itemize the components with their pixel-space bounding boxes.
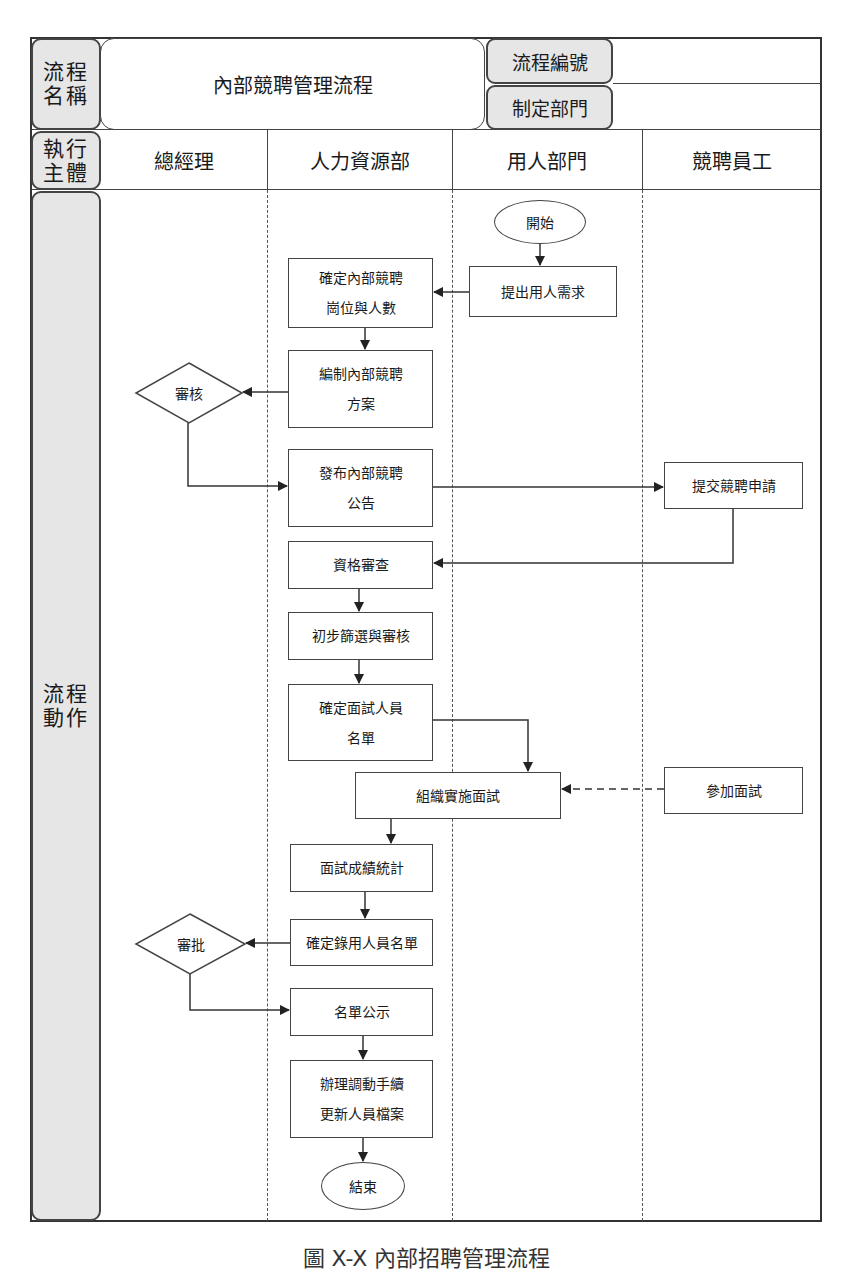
node-conduct-interview[interactable]: 組織實施面試 xyxy=(355,772,561,819)
lane-header-divider xyxy=(452,130,453,190)
node-confirm-positions-line2: 崗位與人數 xyxy=(319,293,403,323)
executor-label: 執行 主體 xyxy=(31,131,101,190)
node-score-stats[interactable]: 面試成績統計 xyxy=(290,844,433,892)
node-score-stats-text: 面試成績統計 xyxy=(320,853,404,883)
action-label-line1: 流程 xyxy=(40,682,92,706)
dept-label: 制定部門 xyxy=(486,85,613,130)
executor-label-line1: 執行 xyxy=(40,137,92,161)
node-start-text: 開始 xyxy=(526,212,554,232)
node-confirm-interviewees-line1: 確定面試人員 xyxy=(319,693,403,723)
lane-separator xyxy=(642,190,643,1221)
node-conduct-interview-text: 組織實施面試 xyxy=(416,781,500,811)
lane-header-emp-text: 競聘員工 xyxy=(692,146,772,175)
node-draft-plan-line2: 方案 xyxy=(319,389,403,419)
lane-header-divider xyxy=(267,130,268,190)
node-draft-plan[interactable]: 編制內部競聘 方案 xyxy=(288,350,433,428)
node-publish-list[interactable]: 名單公示 xyxy=(290,988,433,1036)
process-name-label: 流程 名稱 xyxy=(31,38,101,130)
node-confirm-hires-text: 確定錄用人員名單 xyxy=(306,928,418,958)
process-id-value xyxy=(613,38,821,84)
node-start[interactable]: 開始 xyxy=(494,200,586,244)
process-title-text: 內部競聘管理流程 xyxy=(213,70,373,99)
process-title: 內部競聘管理流程 xyxy=(100,38,485,130)
lane-header-bottom-line xyxy=(31,189,821,190)
node-attend-interview[interactable]: 參加面試 xyxy=(664,767,803,814)
lane-header-divider xyxy=(642,130,643,190)
lane-header-dept-text: 用人部門 xyxy=(507,146,587,175)
node-publish-notice-line1: 發布內部競聘 xyxy=(319,458,403,488)
node-submit-application[interactable]: 提交競聘申請 xyxy=(664,462,803,509)
node-confirm-hires[interactable]: 確定錄用人員名單 xyxy=(290,919,433,966)
process-name-label-line2: 名稱 xyxy=(40,84,92,108)
node-transfer-procedures-line2: 更新人員檔案 xyxy=(320,1099,404,1129)
node-review[interactable]: 審核 xyxy=(136,363,242,423)
node-confirm-positions[interactable]: 確定內部競聘 崗位與人數 xyxy=(288,258,433,328)
executor-label-line2: 主體 xyxy=(40,161,92,185)
node-draft-plan-line1: 編制內部競聘 xyxy=(319,359,403,389)
lane-separator xyxy=(267,190,268,1221)
node-end-text: 結束 xyxy=(349,1176,377,1196)
node-transfer-procedures[interactable]: 辦理調動手續 更新人員檔案 xyxy=(290,1060,433,1138)
node-submit-demand-text: 提出用人需求 xyxy=(501,277,585,307)
node-publish-list-text: 名單公示 xyxy=(334,997,390,1027)
node-attend-interview-text: 參加面試 xyxy=(706,776,762,806)
node-publish-notice[interactable]: 發布內部競聘 公告 xyxy=(288,449,433,527)
node-approve-text: 審批 xyxy=(177,934,205,954)
action-label-line2: 動作 xyxy=(40,706,92,730)
node-confirm-interviewees[interactable]: 確定面試人員 名單 xyxy=(288,684,433,761)
node-end[interactable]: 結束 xyxy=(321,1162,405,1210)
node-initial-screening[interactable]: 初步篩選與審核 xyxy=(288,612,433,660)
header-divider xyxy=(613,83,821,84)
node-confirm-positions-line1: 確定內部競聘 xyxy=(319,263,403,293)
process-name-label-line1: 流程 xyxy=(40,60,92,84)
node-publish-notice-line2: 公告 xyxy=(319,488,403,518)
node-qualification-check-text: 資格審查 xyxy=(333,550,389,580)
dept-value xyxy=(613,85,821,130)
lane-header-hr-text: 人力資源部 xyxy=(310,146,410,175)
node-initial-screening-text: 初步篩選與審核 xyxy=(312,621,410,651)
node-approve[interactable]: 審批 xyxy=(136,914,245,974)
node-confirm-interviewees-line2: 名單 xyxy=(319,723,403,753)
lane-header-gm: 總經理 xyxy=(101,130,267,190)
process-id-label: 流程編號 xyxy=(486,38,613,84)
node-submit-demand[interactable]: 提出用人需求 xyxy=(469,266,617,317)
node-transfer-procedures-line1: 辦理調動手續 xyxy=(320,1069,404,1099)
node-qualification-check[interactable]: 資格審查 xyxy=(288,541,433,589)
lane-header-hr: 人力資源部 xyxy=(267,130,452,190)
lane-header-gm-text: 總經理 xyxy=(154,146,214,175)
process-id-label-text: 流程編號 xyxy=(512,48,588,75)
lane-header-emp: 競聘員工 xyxy=(642,130,822,190)
node-review-text: 審核 xyxy=(175,383,203,403)
figure-caption: 圖 X-X 內部招聘管理流程 xyxy=(0,1240,853,1272)
node-submit-application-text: 提交競聘申請 xyxy=(692,471,776,501)
dept-label-text: 制定部門 xyxy=(512,94,588,121)
action-label: 流程 動作 xyxy=(31,191,101,1221)
lane-separator xyxy=(452,190,453,1221)
lane-header-dept: 用人部門 xyxy=(452,130,642,190)
